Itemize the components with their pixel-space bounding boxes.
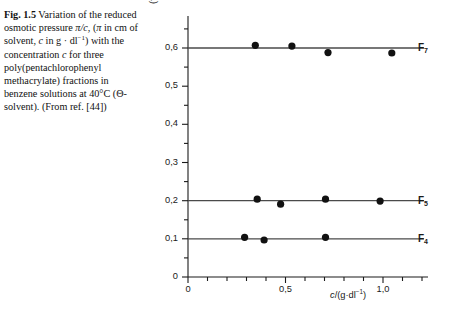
data-point bbox=[277, 201, 284, 208]
y-tick-label-0: 0 bbox=[152, 271, 178, 281]
y-axis-title-text: (π/c) bbox=[148, 0, 158, 4]
y-tick-label-0.4: 0,4 bbox=[152, 118, 178, 128]
data-point bbox=[288, 43, 295, 50]
y-tick-label-0.1: 0,1 bbox=[152, 233, 178, 243]
chart-svg bbox=[0, 0, 450, 324]
data-point bbox=[241, 234, 248, 241]
y-axis-ticks bbox=[182, 29, 188, 277]
figure-container: Fig. 1.5 Variation of the reduced osmoti… bbox=[0, 0, 450, 324]
data-point bbox=[388, 49, 395, 56]
data-point bbox=[261, 236, 268, 243]
data-point bbox=[322, 234, 329, 241]
chart-plot-area: 0 0,1 0,2 0,3 0,4 0,5 0,6 0 0,5 1,0 (π/c… bbox=[0, 0, 450, 324]
series-label-F5-sub: 5 bbox=[424, 199, 428, 206]
series-label-F5: F5 bbox=[418, 195, 428, 206]
x-axis-title-unit: /(g·dl−1) bbox=[335, 290, 367, 300]
series-F4 bbox=[188, 234, 424, 244]
y-tick-label-0.6: 0,6 bbox=[152, 42, 178, 52]
y-tick-label-0.2: 0,2 bbox=[152, 195, 178, 205]
y-tick-label-0.3: 0,3 bbox=[152, 157, 178, 167]
x-tick-label-0: 0 bbox=[173, 284, 203, 294]
series-F7 bbox=[188, 42, 424, 57]
x-tick-label-1.0: 1,0 bbox=[368, 284, 398, 294]
data-point bbox=[322, 196, 329, 203]
series-label-F4-sub: 4 bbox=[424, 238, 428, 245]
series-F5 bbox=[188, 196, 424, 208]
data-point bbox=[254, 196, 261, 203]
x-axis-title: c/(g·dl−1) bbox=[330, 290, 366, 300]
data-point bbox=[252, 42, 259, 49]
data-point bbox=[324, 49, 331, 56]
x-tick-label-0.5: 0,5 bbox=[271, 284, 301, 294]
data-point bbox=[377, 198, 384, 205]
series-label-F7-sub: 7 bbox=[424, 47, 428, 54]
series-label-F7: F7 bbox=[418, 42, 428, 53]
x-axis-title-var: c bbox=[330, 290, 335, 300]
y-axis-title: (π/c) bbox=[148, 0, 158, 4]
x-axis-ticks bbox=[188, 277, 422, 283]
y-tick-label-0.5: 0,5 bbox=[152, 80, 178, 90]
series-label-F4: F4 bbox=[418, 233, 428, 244]
